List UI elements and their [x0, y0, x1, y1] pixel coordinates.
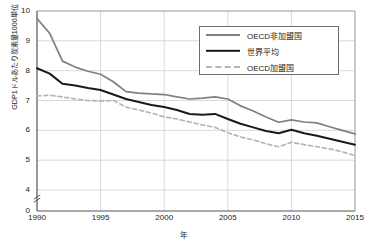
legend-item-nonoecd: OECD非加盟国 [200, 27, 338, 43]
legend-line-icon-nonoecd [206, 30, 240, 40]
legend: OECD非加盟国 世界平均 OECD加盟国 [199, 26, 339, 75]
legend-item-oecd: OECD加盟国 [200, 59, 338, 75]
x-tick-label: 2015 [335, 213, 367, 222]
y-tick-label: 8 [8, 66, 30, 75]
line-chart: GDP1ドルあたり炭素量1000単位 年 045678910 199019952… [0, 0, 367, 242]
y-tick-label: 10 [8, 6, 30, 15]
x-axis-title: 年 [0, 229, 367, 240]
x-tick-label: 2000 [144, 213, 184, 222]
legend-line-icon-oecd [206, 62, 240, 72]
legend-label-world: 世界平均 [247, 46, 279, 57]
x-tick-label: 1995 [81, 213, 121, 222]
y-tick-label: 6 [8, 125, 30, 134]
legend-item-world: 世界平均 [200, 43, 338, 59]
y-tick-label: 7 [8, 96, 30, 105]
y-tick-label: 5 [8, 155, 30, 164]
x-tick-label: 2010 [271, 213, 311, 222]
legend-label-nonoecd: OECD非加盟国 [247, 30, 302, 41]
y-tick-label: 9 [8, 36, 30, 45]
y-tick-label: 4 [8, 185, 30, 194]
y-axis-title: GDP1ドルあたり炭素量1000単位 [9, 0, 19, 127]
legend-label-oecd: OECD加盟国 [247, 62, 294, 73]
legend-line-icon-world [206, 46, 240, 56]
x-tick-label: 1990 [17, 213, 57, 222]
x-tick-label: 2005 [208, 213, 248, 222]
